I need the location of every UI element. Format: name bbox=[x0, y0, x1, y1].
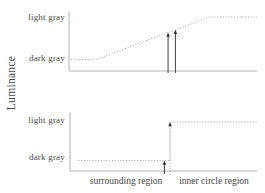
top-panel-arrow-1-head bbox=[166, 33, 169, 37]
bottom-panel-axes bbox=[70, 112, 257, 171]
top-panel-dark-gray-label: dark gray bbox=[3, 53, 65, 63]
bottom-panel-luminance-profile bbox=[78, 122, 257, 161]
bottom-panel-arrow-2-head bbox=[168, 122, 171, 126]
bottom-panel-light-gray-label: light gray bbox=[3, 115, 65, 125]
top-panel-arrow-2-head bbox=[174, 30, 177, 34]
luminance-profile-figure: Luminance light gray dark gray light gra… bbox=[0, 0, 265, 193]
top-panel-light-gray-label: light gray bbox=[3, 12, 65, 22]
inner-circle-region-label: inner circle region bbox=[149, 176, 265, 187]
top-panel-luminance-profile bbox=[71, 17, 257, 60]
bottom-panel-dark-gray-label: dark gray bbox=[3, 152, 65, 162]
bottom-panel-arrow-1-head bbox=[163, 161, 166, 165]
top-panel-axes bbox=[69, 12, 257, 71]
figure-canvas bbox=[0, 0, 265, 193]
